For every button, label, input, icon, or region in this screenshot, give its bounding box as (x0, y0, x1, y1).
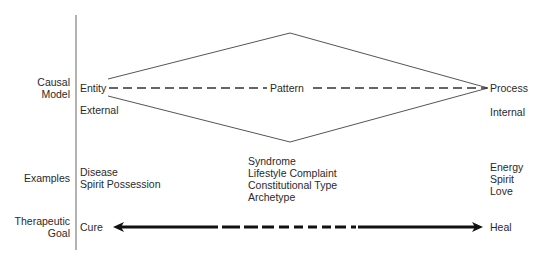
example-item: Spirit (490, 173, 523, 185)
node-process: Process (490, 82, 528, 94)
row-label-therapeutic-goal: Therapeutic Goal (0, 215, 70, 239)
example-item: Spirit Possession (80, 178, 161, 190)
node-entity: Entity (80, 82, 106, 94)
row-label-goal-line1: Therapeutic (0, 215, 70, 227)
example-item: Disease (80, 166, 161, 178)
diamond-top-edge (108, 33, 488, 88)
sublabel-external: External (80, 104, 119, 116)
diamond-bottom-edge (108, 88, 488, 142)
example-item: Constitutional Type (248, 179, 337, 191)
row-label-examples: Examples (0, 172, 70, 184)
example-item: Lifestyle Complaint (248, 167, 337, 179)
sublabel-internal: Internal (490, 106, 525, 118)
example-item: Love (490, 185, 523, 197)
examples-left: Disease Spirit Possession (80, 166, 161, 190)
examples-right: Energy Spirit Love (490, 161, 523, 197)
row-label-goal-line2: Goal (0, 227, 70, 239)
example-item: Archetype (248, 191, 337, 203)
example-item: Syndrome (248, 155, 337, 167)
goal-heal: Heal (490, 221, 512, 233)
row-label-causal-line2: Model (0, 88, 70, 100)
row-label-causal-model: Causal Model (0, 76, 70, 100)
examples-center: Syndrome Lifestyle Complaint Constitutio… (248, 155, 337, 203)
goal-cure: Cure (80, 221, 103, 233)
node-pattern: Pattern (270, 82, 304, 94)
row-label-causal-line1: Causal (0, 76, 70, 88)
example-item: Energy (490, 161, 523, 173)
therapeutic-arrow (113, 222, 483, 232)
